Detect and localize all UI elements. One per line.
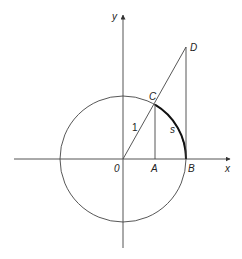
point-D-label: D <box>190 42 197 53</box>
point-B-label: B <box>188 163 195 174</box>
arc-s-label: s <box>170 124 175 135</box>
point-C-label: C <box>149 91 157 102</box>
radius-label: 1 <box>132 122 138 133</box>
y-axis-label: y <box>111 11 118 22</box>
point-A-label: A <box>150 163 158 174</box>
x-axis-label: x <box>224 163 231 174</box>
line-OD <box>123 47 186 159</box>
unit-circle-diagram: y x 0 A B C D 1 s <box>0 0 242 259</box>
origin-label: 0 <box>114 163 120 174</box>
